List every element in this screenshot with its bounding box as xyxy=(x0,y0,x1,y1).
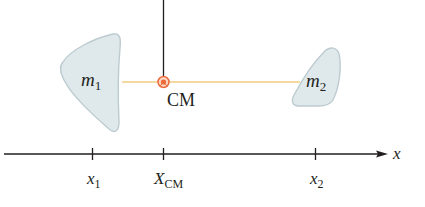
center-of-mass-diagram: m1 m2 CM x x1 XCM x2 xyxy=(0,0,425,207)
cm-label: CM xyxy=(167,90,195,110)
tick-label-x1: x1 xyxy=(86,169,101,191)
cm-marker-icon xyxy=(158,77,169,88)
x-axis-label: x xyxy=(392,144,401,163)
tick-label-x2: x2 xyxy=(309,169,324,191)
tick-label-xcm: XCM xyxy=(153,169,183,191)
